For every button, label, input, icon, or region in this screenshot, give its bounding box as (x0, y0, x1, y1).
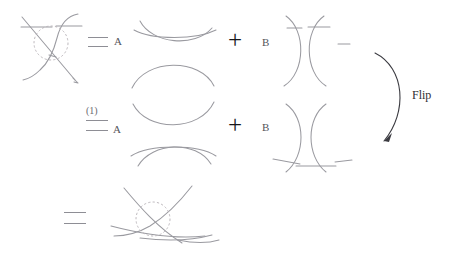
coefficient-label-a-row1: A (114, 36, 122, 47)
equation-index-label: (1) (86, 106, 98, 116)
row1-term-b-arcs (284, 16, 350, 86)
knot-skein-figure: A + B (1) A + B Flip (0, 0, 458, 271)
flip-label: Flip (412, 89, 431, 101)
coefficient-label-a-row2: A (113, 124, 121, 135)
plus-operator-row1: + (228, 27, 242, 52)
coefficient-label-b-row1: B (262, 37, 269, 48)
row2-term-b-arcs (273, 104, 352, 172)
row2-term-a-arcs (131, 102, 216, 166)
coefficient-label-b-row2: B (262, 122, 269, 133)
row1-term-a-arcs (132, 21, 216, 88)
flip-arrow (375, 53, 400, 142)
row1-left-crossing-diagram (21, 14, 82, 83)
row3-dashed-highlight-circle (136, 202, 170, 236)
plus-operator-row2: + (228, 112, 242, 137)
row3-left-crossing-diagram (111, 186, 219, 243)
